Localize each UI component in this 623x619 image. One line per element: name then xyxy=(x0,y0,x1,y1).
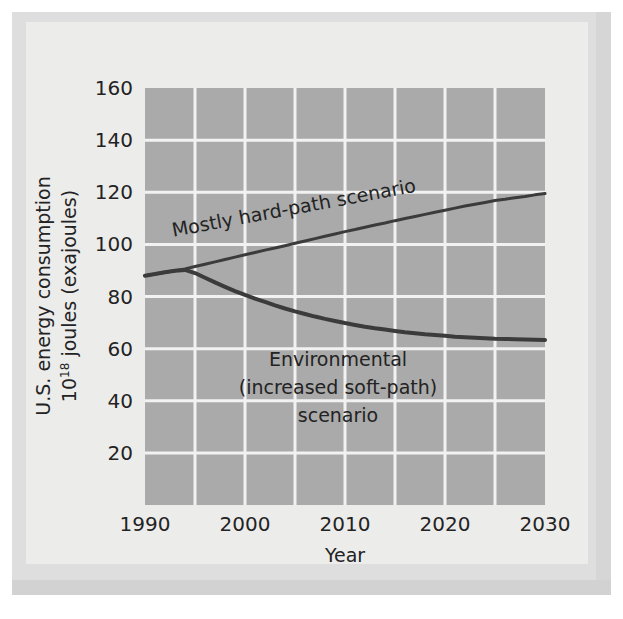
y-tick-label-160: 160 xyxy=(95,76,133,100)
y-tick-labels: 20406080100120140160 xyxy=(95,76,133,465)
y-tick-label-40: 40 xyxy=(108,389,133,413)
x-axis-title: Year xyxy=(324,544,365,566)
x-tick-label-2000: 2000 xyxy=(220,512,271,536)
x-tick-labels: 19902000201020202030 xyxy=(120,512,571,536)
figure-root: 20406080100120140160 1990200020102020203… xyxy=(0,0,623,619)
annotation-environmental-line3: scenario xyxy=(298,404,378,426)
y-tick-label-120: 120 xyxy=(95,180,133,204)
y-tick-label-20: 20 xyxy=(108,441,133,465)
x-tick-label-1990: 1990 xyxy=(120,512,171,536)
x-tick-label-2010: 2010 xyxy=(320,512,371,536)
annotation-environmental-line2: (increased soft-path) xyxy=(239,376,437,398)
annotation-environmental-line1: Environmental xyxy=(269,348,407,370)
y-tick-label-140: 140 xyxy=(95,128,133,152)
x-tick-label-2030: 2030 xyxy=(520,512,571,536)
y-tick-label-80: 80 xyxy=(108,285,133,309)
y-axis-title-line1: U.S. energy consumption xyxy=(32,176,54,415)
chart-svg: 20406080100120140160 1990200020102020203… xyxy=(0,0,623,619)
x-tick-label-2020: 2020 xyxy=(420,512,471,536)
y-axis-title-exponent: 18 xyxy=(58,363,72,378)
y-tick-label-60: 60 xyxy=(108,337,133,361)
y-axis-title-line2: 1018 joules (exajoules) xyxy=(58,190,80,402)
y-axis-title: U.S. energy consumption 1018 joules (exa… xyxy=(32,176,80,415)
y-tick-label-100: 100 xyxy=(95,232,133,256)
y-axis-title-base: 10 xyxy=(58,378,80,402)
y-axis-title-units: joules (exajoules) xyxy=(58,190,80,363)
